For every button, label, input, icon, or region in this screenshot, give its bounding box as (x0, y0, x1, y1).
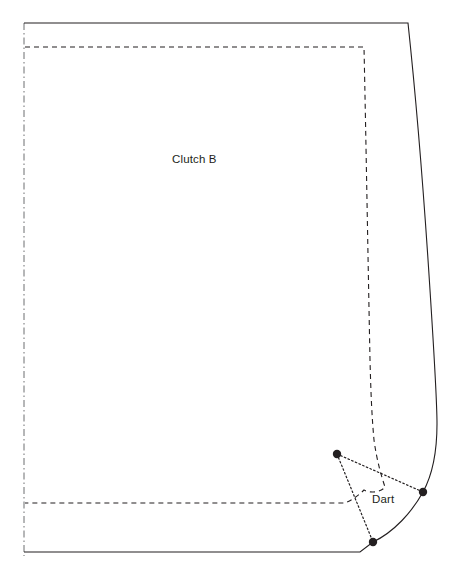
dart-upper-leg-point (419, 488, 427, 496)
dart-label: Dart (372, 493, 394, 505)
dart-lower-leg-point (369, 538, 377, 546)
dart-apex-point (333, 450, 341, 458)
cutting-line (24, 23, 437, 552)
dart-leg-upper (337, 454, 423, 492)
page-title: Clutch B (172, 153, 217, 165)
pattern-diagram-canvas: Clutch B Dart (0, 0, 456, 576)
stitching-line (25, 47, 385, 503)
pattern-drawing (0, 0, 456, 576)
